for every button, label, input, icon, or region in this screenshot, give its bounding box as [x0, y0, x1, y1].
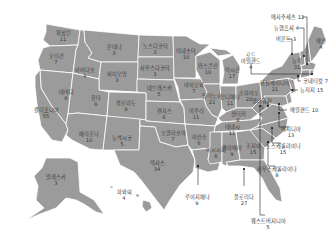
state-label-nv: 네바다6: [59, 89, 74, 101]
state-label-co: 콜로라도9: [116, 100, 136, 112]
state-label-ak: 알래스카3: [46, 174, 66, 186]
state-label-ut: 유타6: [91, 95, 101, 107]
callout-label-vt: 버몬트 3: [276, 36, 296, 42]
state-label-il: 일리노이21: [202, 93, 222, 105]
electoral-votes: 5: [147, 91, 172, 97]
callout-label-wv: 웨스트버지니아5: [251, 218, 286, 230]
electoral-votes: 34: [150, 166, 165, 172]
state-label-or: 오리건7: [49, 53, 64, 65]
state-label-mo: 미주리11: [189, 108, 204, 120]
state-label-sd: 사우스다코타3: [140, 65, 170, 77]
callout-label-ct: 코네티컷 7: [303, 78, 328, 84]
state-label-ia: 아이오와7: [184, 82, 204, 94]
state-label-nm: 뉴멕시코5: [112, 135, 132, 147]
state-label-tn: 테네시11: [225, 124, 240, 136]
state-label-mt: 몬태나3: [107, 44, 122, 56]
electoral-votes: 17: [225, 73, 240, 79]
electoral-votes: 6: [59, 95, 74, 101]
state-label-wy: 와이오밍3: [107, 71, 127, 83]
electoral-votes: 7: [161, 136, 186, 142]
state-label-ca: 캘리포니아55: [34, 107, 59, 119]
callout-label-fl: 플로리다27: [234, 194, 254, 206]
state-label-ok: 오클라호마7: [161, 130, 186, 142]
state-label-ks: 캔자스6: [157, 108, 172, 120]
electoral-votes: 10: [79, 137, 99, 143]
state-label-mi: 미시간17: [225, 67, 240, 79]
electoral-votes: 11: [225, 130, 240, 136]
electoral-votes: 55: [34, 113, 59, 119]
electoral-votes: 3: [46, 180, 66, 186]
electoral-votes: 21: [202, 99, 222, 105]
state-label-az: 애리조나10: [79, 131, 99, 143]
electoral-votes: 6: [192, 140, 207, 146]
state-label-wa: 워싱턴11: [56, 30, 71, 42]
electoral-votes: 11: [220, 100, 240, 106]
state-label-mn: 미네소타10: [176, 48, 196, 60]
electoral-votes: 6: [157, 114, 172, 120]
callout-label-nh: 뉴햄프셔 4: [274, 25, 299, 31]
electoral-votes: 8: [231, 117, 246, 123]
electoral-votes: 21: [260, 86, 290, 92]
state-label-me: 메인4: [316, 38, 326, 50]
electoral-votes: 3: [107, 50, 122, 56]
electoral-votes: 15: [246, 149, 261, 155]
electoral-votes: 3: [143, 49, 168, 55]
electoral-votes: 10: [176, 54, 196, 60]
electoral-votes: 6: [91, 101, 101, 107]
state-label-pa: 펜실베이니아21: [260, 80, 290, 92]
electoral-votes: 4: [75, 73, 95, 79]
state-label-hi: 하와이4: [117, 189, 132, 201]
state-ak: [26, 158, 104, 220]
state-label-ar: 아칸소6: [192, 134, 207, 146]
electoral-votes: 4: [117, 195, 132, 201]
callout-label-nc: 노스캐롤라이나15: [266, 143, 301, 155]
electoral-votes: 10: [198, 69, 218, 75]
electoral-votes: 3: [107, 77, 127, 83]
electoral-votes: 3: [140, 71, 170, 77]
electoral-votes: 31: [292, 64, 302, 70]
state-label-wi: 위스콘신10: [198, 63, 218, 75]
state-label-id: 아이다호4: [75, 67, 95, 79]
electoral-votes: 9: [116, 106, 136, 112]
callout-label-la: 루이지애나9: [185, 194, 210, 206]
callout-label-va: 버지니아13: [281, 126, 301, 138]
state-label-in: 인디애나11: [220, 94, 240, 106]
state-label-tx: 텍사스34: [150, 160, 165, 172]
callout-label-sc: 사우스캐롤라이나8: [257, 166, 297, 178]
state-label-ky: 켄터키8: [231, 111, 246, 123]
callout-label-de: 델라웨어3: [252, 98, 272, 110]
callout-label-ma: 매사추세츠 12: [271, 14, 304, 20]
state-label-ga: 조지아15: [246, 143, 261, 155]
state-label-ne: 네브래스카5: [147, 85, 172, 97]
electoral-votes: 5: [112, 141, 132, 147]
state-label-al: 앨라배마9: [222, 145, 242, 157]
callout-label-nj: 뉴저지 15: [300, 87, 323, 93]
electoral-votes: 7: [184, 88, 204, 94]
electoral-votes: 9: [222, 151, 242, 157]
callout-label-md: 메릴랜드 10: [290, 107, 318, 113]
electoral-votes: 4: [316, 44, 326, 50]
state-label-ny: 뉴욕31: [292, 58, 302, 70]
callout-label-ri: 로드아일랜드4: [241, 52, 261, 70]
electoral-votes: 7: [49, 59, 64, 65]
electoral-votes: 11: [56, 36, 71, 42]
electoral-votes: 11: [189, 114, 204, 120]
state-label-nd: 노스다코타3: [143, 43, 168, 55]
